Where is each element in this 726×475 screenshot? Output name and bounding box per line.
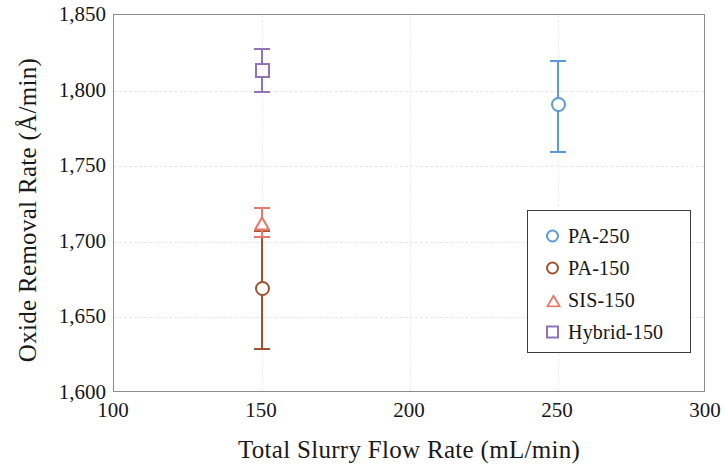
legend-item-sis-150[interactable]: SIS-150 bbox=[528, 284, 690, 316]
chart-figure: Oxide Removal Rate (Å/min) 1,6001,6501,7… bbox=[0, 0, 726, 475]
legend-marker-square-icon bbox=[544, 322, 568, 342]
y-tick-label: 1,700 bbox=[36, 228, 106, 253]
x-tick-label: 150 bbox=[221, 398, 301, 423]
gridline-vertical bbox=[410, 15, 411, 391]
legend-key-glyph bbox=[546, 230, 559, 243]
x-axis-title: Total Slurry Flow Rate (mL/min) bbox=[113, 436, 705, 464]
legend: PA-250PA-150SIS-150Hybrid-150 bbox=[527, 210, 691, 353]
gridline-horizontal bbox=[114, 91, 704, 92]
legend-item-pa-250[interactable]: PA-250 bbox=[528, 220, 690, 252]
y-tick-label: 1,850 bbox=[36, 2, 106, 27]
legend-label: Hybrid-150 bbox=[568, 321, 663, 344]
y-tick-label: 1,750 bbox=[36, 153, 106, 178]
y-tick-label: 1,650 bbox=[36, 304, 106, 329]
legend-label: SIS-150 bbox=[568, 289, 635, 312]
legend-marker-circle-icon bbox=[544, 258, 568, 278]
x-tick-label: 250 bbox=[517, 398, 597, 423]
gridline-horizontal bbox=[114, 166, 704, 167]
legend-key-glyph bbox=[546, 294, 561, 307]
legend-marker-triangle-icon bbox=[544, 290, 568, 310]
legend-marker-circle-icon bbox=[544, 226, 568, 246]
legend-label: PA-150 bbox=[568, 257, 630, 280]
x-tick-label: 300 bbox=[665, 398, 726, 423]
legend-key-glyph bbox=[546, 326, 559, 339]
legend-key-glyph bbox=[546, 262, 559, 275]
legend-item-pa-150[interactable]: PA-150 bbox=[528, 252, 690, 284]
gridline-vertical bbox=[262, 15, 263, 391]
legend-label: PA-250 bbox=[568, 225, 630, 248]
legend-item-hybrid-150[interactable]: Hybrid-150 bbox=[528, 316, 690, 348]
y-tick-label: 1,800 bbox=[36, 77, 106, 102]
x-tick-label: 200 bbox=[369, 398, 449, 423]
x-tick-label: 100 bbox=[73, 398, 153, 423]
